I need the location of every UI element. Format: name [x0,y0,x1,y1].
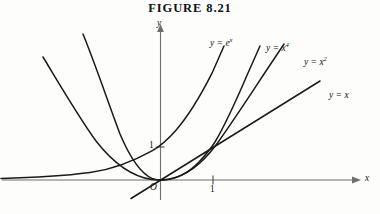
x-axis [2,177,361,184]
curve-label-quartic-exponent: 4 [286,41,289,48]
curve-quadratic [43,44,284,180]
curve-linear [131,81,320,199]
x-tick-label-1: 1 [210,184,215,194]
y-axis [157,24,164,200]
curve-label-exp-exponent: x [230,36,233,43]
curve-label-linear: y = x [329,90,349,100]
curve-label-quartic: y = x4 [266,43,289,53]
x-axis-label: x [365,173,369,183]
origin-label: O [150,182,157,192]
curve-label-linear-base: y = x [329,90,349,100]
y-tick-label-1: 1 [149,140,154,150]
curve-label-exp-base: y = e [210,38,230,48]
plot-canvas [0,0,380,214]
curve-label-quadratic: y = x2 [304,57,327,67]
curve-label-quadratic-base: y = x [304,57,324,67]
figure-container: FIGURE 8.21 y = ex y = x4 [0,0,380,214]
curve-quartic [83,34,260,180]
y-axis-label: y [157,18,161,28]
curve-label-quadratic-exponent: 2 [324,55,327,62]
curve-label-exp: y = ex [210,38,233,48]
curve-label-quartic-base: y = x [266,43,286,53]
